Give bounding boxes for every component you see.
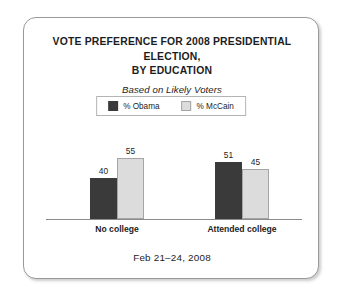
chart-frame: VOTE PREFERENCE FOR 2008 PRESIDENTIAL EL… bbox=[23, 17, 319, 279]
title-block: VOTE PREFERENCE FOR 2008 PRESIDENTIAL EL… bbox=[24, 35, 320, 95]
legend-entry-obama[interactable]: % Obama bbox=[108, 101, 159, 111]
bar-column-attended-college-obama[interactable]: 51 bbox=[215, 151, 242, 219]
category-label-no-college: No college bbox=[95, 224, 138, 234]
bar-value-no-college-mccain: 55 bbox=[126, 147, 135, 156]
legend-swatch-obama-icon bbox=[108, 101, 118, 111]
axis-baseline bbox=[46, 219, 302, 220]
chart-legend: % Obama % McCain bbox=[96, 96, 246, 116]
bar-group-attended-college: 51 45 bbox=[215, 151, 269, 219]
chart-subtitle: Based on Likely Voters bbox=[24, 79, 320, 95]
chart-title-line-1: VOTE PREFERENCE FOR 2008 PRESIDENTIAL EL… bbox=[24, 35, 320, 64]
legend-swatch-mccain-icon bbox=[182, 101, 192, 111]
chart-title-line-2: BY EDUCATION bbox=[24, 64, 320, 79]
bar-attended-college-obama[interactable] bbox=[215, 162, 242, 219]
category-axis-labels: No college Attended college bbox=[24, 224, 320, 238]
bar-column-attended-college-mccain[interactable]: 45 bbox=[242, 158, 269, 219]
legend-entry-mccain[interactable]: % McCain bbox=[182, 101, 234, 111]
legend-label-mccain: % McCain bbox=[197, 102, 234, 111]
bar-no-college-mccain[interactable] bbox=[117, 158, 144, 219]
plot-area: 40 55 51 45 bbox=[24, 130, 320, 220]
bar-value-attended-college-mccain: 45 bbox=[251, 158, 260, 167]
bar-no-college-obama[interactable] bbox=[90, 178, 117, 219]
legend-label-obama: % Obama bbox=[123, 102, 159, 111]
bar-attended-college-mccain[interactable] bbox=[242, 169, 269, 219]
category-label-attended-college: Attended college bbox=[207, 224, 276, 234]
bar-value-no-college-obama: 40 bbox=[99, 167, 108, 176]
bar-column-no-college-mccain[interactable]: 55 bbox=[117, 147, 144, 219]
bar-column-no-college-obama[interactable]: 40 bbox=[90, 167, 117, 219]
bar-group-no-college: 40 55 bbox=[90, 147, 144, 219]
bar-value-attended-college-obama: 51 bbox=[224, 151, 233, 160]
chart-footer-date: Feb 21–24, 2008 bbox=[24, 252, 320, 263]
